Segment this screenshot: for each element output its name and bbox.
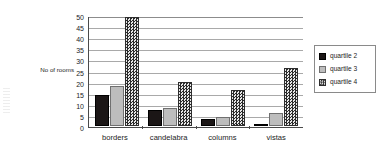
y-tick-label: 15 [62,91,84,98]
bar [216,117,230,126]
bar [125,17,139,126]
bar-group [250,17,303,126]
x-axis-tick [142,126,143,129]
scan-artifact [3,88,10,114]
y-tick-label: 30 [62,58,84,65]
bar [178,82,192,126]
bar [163,108,177,126]
y-tick-label: 5 [62,113,84,120]
plot-area [88,17,303,128]
legend-label: quartile 3 [330,65,357,73]
bar [201,119,215,126]
bar [95,95,109,126]
y-tick-label: 45 [62,25,84,32]
legend-item: quartile 2 [319,50,372,62]
x-axis-label: columns [196,133,250,142]
legend-swatch-icon [319,53,326,60]
x-axis-tick [249,126,250,129]
legend-swatch-icon [319,66,326,73]
bar-chart: No of rooms 05101520253035404550 borders… [0,0,382,156]
y-tick-label: 10 [62,102,84,109]
legend: quartile 2quartile 3quartile 4 [314,45,376,93]
x-axis-label: vistas [249,133,303,142]
y-tick-label: 0 [62,125,84,132]
y-tick-label: 20 [62,80,84,87]
bar [231,90,245,126]
legend-item: quartile 3 [319,63,372,75]
legend-label: quartile 4 [330,78,357,86]
legend-label: quartile 2 [330,52,357,60]
x-axis-category-labels: borderscandelabracolumnsvistas [88,133,303,142]
bar [110,86,124,126]
legend-swatch-icon [319,79,326,86]
bar [269,113,283,126]
x-axis-tick [196,126,197,129]
bar [148,110,162,126]
bar-group [90,17,143,126]
y-tick-label: 40 [62,36,84,43]
bar [254,124,268,126]
x-axis-label: borders [88,133,142,142]
y-tick-label: 50 [62,14,84,21]
y-tick-label: 25 [62,69,84,76]
y-tick-label: 35 [62,47,84,54]
x-axis-label: candelabra [142,133,196,142]
bar-group [197,17,250,126]
bar-group [143,17,196,126]
y-axis-tick-labels: 05101520253035404550 [62,17,84,128]
bar-groups [90,17,303,126]
legend-item: quartile 4 [319,76,372,88]
bar [284,68,298,126]
